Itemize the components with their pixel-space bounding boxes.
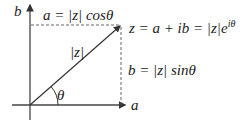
y-axis-label: b <box>14 4 22 19</box>
vector-z <box>30 26 120 105</box>
point-label-exponent: iθ <box>228 18 236 29</box>
x-axis-label: a <box>131 98 139 113</box>
point-label: z = a + ib = |z|eiθ <box>129 19 235 36</box>
vector-magnitude-label: |z| <box>70 45 84 60</box>
angle-label: θ <box>57 88 64 103</box>
complex-plane-diagram: b a a = |z| cosθ z = a + ib = |z|eiθ b =… <box>0 0 245 124</box>
point-label-main: z = a + ib = |z|e <box>129 20 228 36</box>
horizontal-projection-label: a = |z| cosθ <box>43 8 113 23</box>
vertical-projection-label: b = |z| sinθ <box>128 63 196 78</box>
